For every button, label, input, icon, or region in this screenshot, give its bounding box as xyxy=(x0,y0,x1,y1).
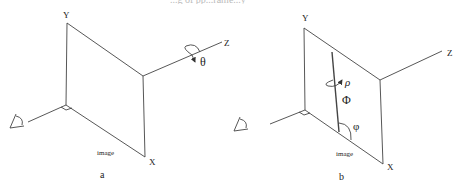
rotation-arrow-icon xyxy=(185,45,200,62)
rho-label: ρ xyxy=(344,76,350,88)
z-label-b: Z xyxy=(447,48,453,58)
phi-lower-label: φ xyxy=(353,120,359,132)
theta-label: θ xyxy=(200,55,206,69)
panel-b xyxy=(234,28,442,164)
x-label-a: X xyxy=(149,157,156,167)
eye-icon xyxy=(234,117,248,131)
panel-label-b: b xyxy=(339,171,344,182)
z-axis xyxy=(143,42,222,76)
view-axis xyxy=(28,105,66,122)
phi-upper-label: Φ xyxy=(342,93,351,107)
x-label-b: X xyxy=(387,162,394,172)
z-axis xyxy=(380,51,442,80)
image-plane xyxy=(66,23,145,157)
eye-icon xyxy=(10,114,24,128)
y-label-b: Y xyxy=(302,13,309,23)
y-label-a: Y xyxy=(63,10,70,20)
image-label-b: image xyxy=(336,150,353,158)
orientation-line xyxy=(332,52,339,132)
panel-a xyxy=(10,23,222,157)
image-label-a: image xyxy=(97,149,114,157)
z-label-a: Z xyxy=(224,38,230,48)
panel-label-a: a xyxy=(100,169,105,180)
